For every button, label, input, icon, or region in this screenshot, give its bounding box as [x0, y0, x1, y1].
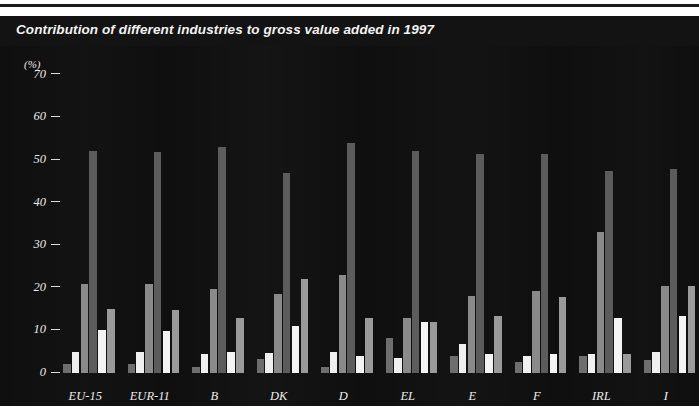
- x-axis-label: E: [440, 389, 505, 404]
- bar: [81, 284, 89, 373]
- bar: [623, 354, 631, 373]
- bar: [403, 318, 411, 373]
- bar: [661, 286, 669, 373]
- bar: [559, 297, 567, 373]
- bar: [192, 367, 200, 373]
- x-axis-label: I: [634, 389, 699, 404]
- bar: [330, 352, 338, 373]
- bar: [365, 318, 373, 373]
- x-axis-label: EU-15: [53, 389, 118, 404]
- x-axis-labels: EU-15EUR-11BDKDELEFIRLI: [0, 384, 699, 406]
- bar: [172, 310, 180, 373]
- bar-group: [63, 33, 116, 373]
- bar-group: [515, 33, 568, 373]
- bar: [614, 318, 622, 373]
- bar: [274, 294, 282, 373]
- bar: [301, 279, 309, 373]
- bar: [257, 359, 265, 373]
- chart-page: Contribution of different industries to …: [0, 0, 699, 416]
- bar: [476, 154, 484, 373]
- x-axis-label: EL: [376, 389, 441, 404]
- bar: [347, 143, 355, 373]
- x-axis-label: IRL: [569, 389, 634, 404]
- bar: [145, 284, 153, 373]
- bar-group: [128, 33, 181, 373]
- bar-group: [450, 33, 503, 373]
- chart-panel: Contribution of different industries to …: [0, 16, 699, 406]
- bar: [459, 344, 467, 373]
- bar: [494, 316, 502, 374]
- bar: [421, 322, 429, 373]
- bar: [394, 358, 402, 373]
- page-top-rule: [0, 4, 699, 7]
- bar: [515, 362, 523, 373]
- bar-group: [386, 33, 439, 373]
- bar: [386, 338, 394, 373]
- bar: [541, 154, 549, 373]
- bar: [532, 291, 540, 373]
- x-axis-label: EUR-11: [118, 389, 183, 404]
- bar: [292, 326, 300, 373]
- bar: [644, 360, 652, 373]
- bar-group: [644, 33, 697, 373]
- bar: [154, 152, 162, 373]
- bar: [652, 352, 660, 373]
- bar: [210, 289, 218, 373]
- bar: [98, 330, 106, 373]
- bar: [679, 316, 687, 374]
- bar: [339, 275, 347, 373]
- bar: [107, 309, 115, 373]
- bar: [89, 151, 97, 373]
- bar: [605, 171, 613, 373]
- bar: [588, 354, 596, 373]
- bar: [227, 352, 235, 373]
- bar: [63, 364, 71, 373]
- bar: [128, 364, 136, 373]
- bar: [430, 322, 438, 373]
- bar: [283, 173, 291, 373]
- bar: [136, 352, 144, 373]
- page-bottom-margin: [0, 406, 699, 416]
- bar: [485, 354, 493, 373]
- bar: [523, 356, 531, 373]
- bar-group: [579, 33, 632, 373]
- bar: [72, 352, 80, 373]
- bar: [670, 169, 678, 373]
- bar: [265, 353, 273, 373]
- bar: [163, 331, 171, 373]
- bar: [412, 151, 420, 373]
- bar: [201, 354, 209, 373]
- x-axis-label: B: [182, 389, 247, 404]
- bar: [688, 286, 696, 373]
- bar: [468, 296, 476, 373]
- bar: [550, 354, 558, 373]
- bar: [321, 367, 329, 373]
- x-axis-label: DK: [247, 389, 312, 404]
- bar-group: [321, 33, 374, 373]
- bar-group: [192, 33, 245, 373]
- bar: [450, 356, 458, 373]
- x-axis-label: F: [505, 389, 570, 404]
- bar-group: [257, 33, 310, 373]
- bar: [236, 318, 244, 373]
- bar: [579, 356, 587, 373]
- bar: [218, 147, 226, 373]
- plot-area: (%) 010203040506070 EU-15EUR-11BDKDELEFI…: [0, 16, 699, 406]
- bar-series-layer: [0, 16, 699, 406]
- bar: [597, 232, 605, 373]
- bar: [356, 356, 364, 373]
- x-axis-label: D: [311, 389, 376, 404]
